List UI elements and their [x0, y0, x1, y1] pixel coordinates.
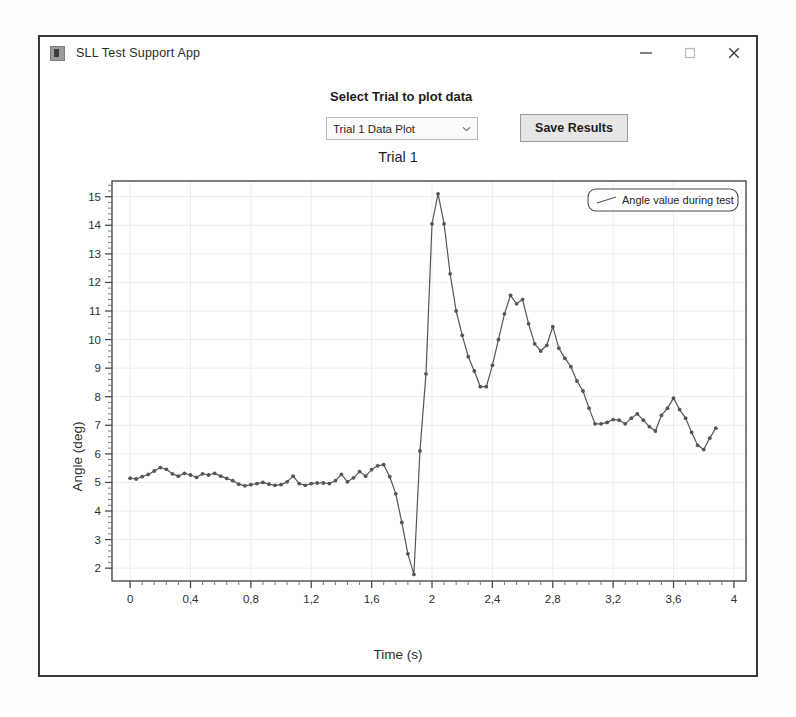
title-bar: SLL Test Support App [40, 37, 756, 69]
close-icon[interactable] [712, 38, 756, 68]
data-series-line [128, 192, 717, 576]
svg-text:0,8: 0,8 [243, 593, 259, 605]
svg-text:2,4: 2,4 [484, 593, 501, 605]
svg-text:14: 14 [88, 219, 101, 231]
trial-select-value: Trial 1 Data Plot [333, 123, 462, 135]
window-controls [624, 37, 756, 69]
svg-text:4: 4 [731, 593, 738, 605]
svg-text:3: 3 [95, 534, 101, 546]
chart-container: Trial 1 Angle (deg) Time (s) 23456789101… [40, 149, 756, 675]
svg-text:2: 2 [429, 593, 435, 605]
svg-text:1,6: 1,6 [364, 593, 380, 605]
svg-text:3,2: 3,2 [605, 593, 621, 605]
svg-text:9: 9 [95, 362, 101, 374]
svg-text:12: 12 [88, 276, 101, 288]
plot-svg: 23456789101112131415 00,40,81,21,622,42,… [40, 169, 756, 639]
svg-text:1,2: 1,2 [303, 593, 319, 605]
select-trial-label: Select Trial to plot data [330, 89, 472, 104]
app-window: SLL Test Support App Select Trial to plo… [38, 35, 758, 677]
svg-text:0: 0 [127, 593, 133, 605]
maximize-icon[interactable] [668, 38, 712, 68]
trial-select-dropdown[interactable]: Trial 1 Data Plot [326, 117, 478, 140]
svg-text:11: 11 [89, 305, 101, 317]
chart-title: Trial 1 [40, 149, 756, 165]
svg-text:8: 8 [95, 391, 101, 403]
gridlines [112, 181, 746, 581]
svg-text:10: 10 [88, 334, 101, 346]
svg-text:2,8: 2,8 [545, 593, 561, 605]
svg-text:0,4: 0,4 [182, 593, 199, 605]
window-title: SLL Test Support App [76, 46, 200, 60]
svg-text:7: 7 [95, 419, 101, 431]
svg-text:4: 4 [95, 505, 102, 517]
plot-frame [112, 181, 746, 581]
y-axis-ticks: 23456789101112131415 [88, 185, 112, 574]
chevron-down-icon [462, 126, 471, 132]
x-axis-label: Time (s) [40, 647, 756, 662]
svg-text:Angle value during test: Angle value during test [622, 194, 734, 206]
save-results-button[interactable]: Save Results [520, 114, 628, 142]
svg-text:13: 13 [88, 248, 101, 260]
app-icon [50, 46, 65, 61]
x-axis-ticks: 00,40,81,21,622,42,83,23,64 [127, 581, 738, 605]
minimize-icon[interactable] [624, 38, 668, 68]
toolbar: Select Trial to plot data Trial 1 Data P… [40, 81, 756, 151]
svg-text:2: 2 [95, 562, 101, 574]
svg-text:15: 15 [88, 191, 101, 203]
chart-legend: Angle value during test [588, 189, 738, 211]
svg-text:6: 6 [95, 448, 101, 460]
svg-text:5: 5 [95, 476, 101, 488]
svg-text:3,6: 3,6 [666, 593, 682, 605]
